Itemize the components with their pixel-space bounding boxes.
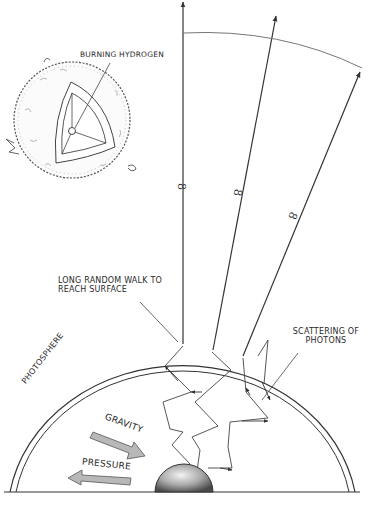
photon-random-walk-diagram: 8 8 8 Burning Hydrogen Long random walk … [0,0,368,512]
infinity-mark: 8 [175,183,188,190]
burning-hydrogen-label: Burning Hydrogen [80,51,164,60]
core-hemisphere [155,464,213,492]
scattering-label: Scattering of photons [291,327,361,345]
random-walk-label: Long random walk to reach surface [58,276,178,294]
pressure-arrow-icon [68,470,131,485]
gravity-arrow-icon [90,432,145,459]
sun-cutaway-icon [6,58,136,178]
photon-random-walk-paths [163,340,268,478]
